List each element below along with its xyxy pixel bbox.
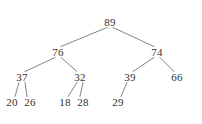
tree-node-37: 37 [16, 72, 27, 83]
tree-node-89: 89 [104, 17, 115, 28]
tree-edge [15, 83, 19, 97]
tree-node-74: 74 [151, 47, 162, 58]
tree-node-39: 39 [124, 72, 135, 83]
tree-edge [133, 58, 154, 72]
tree-node-18: 18 [59, 97, 70, 108]
tree-node-76: 76 [52, 47, 63, 58]
tree-edge [121, 83, 127, 97]
binary-tree-diagram: 897674373239662026182829 [0, 0, 202, 124]
tree-edge [25, 83, 27, 97]
tree-node-29: 29 [112, 97, 123, 108]
tree-node-66: 66 [171, 72, 182, 83]
tree-edge [160, 58, 174, 72]
tree-node-32: 32 [74, 72, 85, 83]
tree-edge [68, 83, 77, 97]
tree-edge [25, 58, 55, 72]
tree-node-26: 26 [24, 97, 35, 108]
tree-edge [113, 28, 154, 47]
tree-edge [61, 58, 77, 72]
edge-group [15, 28, 174, 97]
tree-edge [80, 83, 83, 97]
tree-node-20: 20 [6, 97, 17, 108]
tree-edge [61, 28, 107, 47]
tree-node-28: 28 [77, 97, 88, 108]
